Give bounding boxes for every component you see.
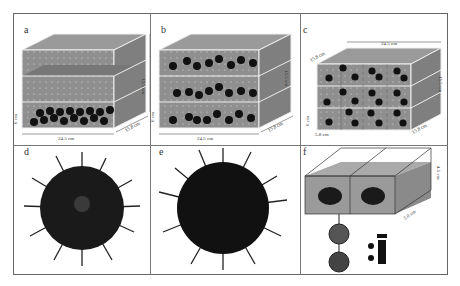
svg-text:4.8 cm: 4.8 cm <box>397 146 411 147</box>
panel-label: d <box>24 146 29 157</box>
panel-d: d <box>14 146 150 275</box>
svg-text:6 cm: 6 cm <box>151 112 155 122</box>
panel-label: c <box>303 24 307 35</box>
panel-c: c 24.5 cm 15.8 cm 15.5 cm 15.8 cm 6 cm 5… <box>301 14 448 145</box>
svg-text:5.0 cm: 5.0 cm <box>403 209 417 221</box>
svg-text:6 cm: 6 cm <box>305 116 310 126</box>
panel-b: b 24.5 cm 15.8 cm 15.5 cm 6 cm <box>151 14 300 145</box>
sea-urchin-photo-oral <box>14 146 150 275</box>
two-chamber-diagram: 4.8 cm 4.5 cm 5.0 cm <box>301 146 448 275</box>
svg-text:15.5 cm: 15.5 cm <box>438 76 443 92</box>
panel-label: f <box>303 146 306 157</box>
svg-text:24.5 cm: 24.5 cm <box>197 136 213 141</box>
svg-text:15.5 cm: 15.5 cm <box>284 70 289 86</box>
svg-text:6 cm: 6 cm <box>14 114 18 124</box>
tank-diagram-compartments: 24.5 cm 15.8 cm 15.5 cm 15.8 cm 6 cm 5.8… <box>301 14 448 145</box>
panel-f: f 4.8 cm 4.5 cm 5.0 cm <box>301 146 448 275</box>
svg-text:24.5 cm: 24.5 cm <box>381 41 397 46</box>
svg-text:4.5 cm: 4.5 cm <box>436 166 441 180</box>
tank-diagram-bottom-layer: 24.5 cm 15.8 cm 15.5 cm 6 cm <box>14 14 150 145</box>
tank-diagram-three-layers: 24.5 cm 15.8 cm 15.5 cm 6 cm <box>151 14 300 145</box>
panel-label: e <box>159 146 163 157</box>
svg-text:24.5 cm: 24.5 cm <box>58 136 74 141</box>
panel-a: a 24.5 cm 15.8 cm 15.5 cm 6 cm <box>14 14 150 145</box>
svg-text:15.5 cm: 15.5 cm <box>141 78 146 94</box>
svg-text:5.8 cm: 5.8 cm <box>315 132 329 137</box>
panel-label: a <box>24 24 28 35</box>
panel-label: b <box>161 24 166 35</box>
panel-e: e <box>151 146 300 275</box>
svg-text:15.8 cm: 15.8 cm <box>124 121 141 133</box>
sea-urchin-photo-aboral <box>151 146 300 275</box>
